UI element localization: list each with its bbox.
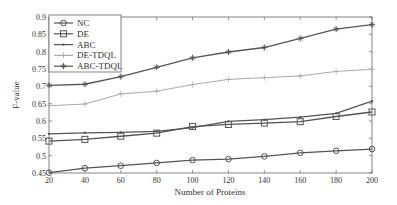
legend-label: DE-TDQL [77, 50, 116, 60]
data-point-abc-tdql [261, 45, 267, 51]
data-point-de-tdql [333, 68, 339, 74]
data-point-abc [120, 131, 122, 133]
data-point-abc [191, 126, 193, 128]
y-tick-label: 0.6 [36, 117, 46, 126]
series-nc [46, 146, 375, 175]
y-tick-label: 0.55 [32, 134, 46, 143]
series-line-de [49, 112, 372, 141]
y-tick-label: 0.85 [32, 30, 46, 39]
data-point-abc [155, 130, 157, 132]
data-point-abc [335, 112, 337, 114]
data-point-abc-tdql [333, 26, 339, 32]
series-line-de-tdql [49, 69, 372, 105]
data-point-abc [263, 118, 265, 120]
y-tick-label: 0.9 [36, 13, 46, 22]
data-point-de-tdql [118, 91, 124, 97]
x-tick-label: 80 [153, 176, 161, 185]
data-point-de-tdql [297, 73, 303, 79]
legend-marker [62, 43, 64, 45]
data-point-abc-tdql [369, 22, 375, 28]
data-point-abc [227, 120, 229, 122]
x-tick-label: 140 [258, 176, 270, 185]
data-point-abc [371, 100, 373, 102]
x-tick-label: 200 [366, 176, 378, 185]
y-tick-label: 0.45 [32, 169, 46, 178]
x-tick-label: 40 [81, 176, 89, 185]
y-tick-label: 0.8 [36, 48, 46, 57]
data-point-abc [299, 116, 301, 118]
legend-label: NC [77, 18, 90, 28]
x-axis-label: Number of Proteins [175, 187, 246, 197]
data-point-de-tdql [190, 82, 196, 88]
data-point-abc [84, 132, 86, 134]
y-tick-label: 0.5 [36, 152, 46, 161]
legend-label: ABC-TDQL [77, 61, 123, 71]
y-tick-label: 0.7 [36, 82, 46, 91]
legend: NCDEABCDE-TDQLABC-TDQL [49, 15, 123, 72]
data-point-abc [48, 133, 50, 135]
x-tick-label: 120 [222, 176, 234, 185]
data-point-abc-tdql [154, 64, 160, 70]
x-tick-label: 180 [330, 176, 342, 185]
data-point-abc-tdql [118, 74, 124, 80]
legend-label: DE [77, 29, 89, 39]
legend-label: ABC [77, 40, 96, 50]
series-line-abc [49, 101, 372, 134]
data-point-de-tdql [154, 88, 160, 94]
data-point-abc-tdql [82, 81, 88, 87]
y-tick-label: 0.75 [32, 65, 46, 74]
y-axis-label: F-value [11, 81, 21, 109]
data-point-de-tdql [82, 101, 88, 107]
data-point-abc-tdql [190, 55, 196, 61]
x-tick-label: 100 [187, 176, 199, 185]
x-tick-label: 20 [45, 176, 53, 185]
line-chart: 20406080100120140160180200 0.450.50.550.… [0, 0, 397, 205]
series-de-tdql [46, 66, 375, 108]
data-point-de-tdql [369, 66, 375, 72]
data-point-de-tdql [261, 75, 267, 81]
x-tick-label: 60 [117, 176, 125, 185]
series-line-nc [49, 149, 372, 173]
data-point-abc-tdql [46, 82, 52, 88]
data-point-de-tdql [225, 76, 231, 82]
x-tick-label: 160 [294, 176, 306, 185]
data-point-abc-tdql [297, 35, 303, 41]
y-tick-label: 0.65 [32, 100, 46, 109]
data-point-abc-tdql [225, 49, 231, 55]
series-abc [48, 100, 373, 135]
